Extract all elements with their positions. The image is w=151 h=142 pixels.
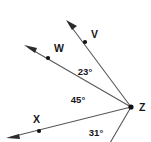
ray-line-x	[11, 107, 131, 137]
ray-to-x: X	[6, 107, 131, 139]
point-label-v: V	[91, 28, 98, 40]
vertex-z: Z	[128, 101, 146, 113]
angle-diagram-canvas: V W X Z 23° 45° 31°	[0, 0, 151, 142]
angle-label-vzw: 23°	[78, 66, 93, 77]
ray-lower	[110, 107, 131, 142]
point-label-z: Z	[139, 101, 146, 113]
point-label-x: X	[33, 113, 40, 125]
geometry-figure: V W X Z 23° 45° 31°	[0, 0, 151, 142]
arrowhead-w-icon	[24, 45, 37, 53]
arrowhead-v-icon	[66, 20, 77, 30]
angle-label-xz-lower: 31°	[89, 127, 104, 138]
point-dot-w	[46, 56, 50, 60]
angle-label-wzx: 45°	[71, 94, 86, 105]
ray-line-lower	[110, 107, 131, 142]
vertex-dot-z	[128, 104, 133, 109]
arrowhead-x-icon	[6, 134, 20, 139]
point-dot-v	[83, 40, 87, 44]
point-label-w: W	[54, 42, 64, 54]
point-dot-x	[37, 129, 41, 133]
